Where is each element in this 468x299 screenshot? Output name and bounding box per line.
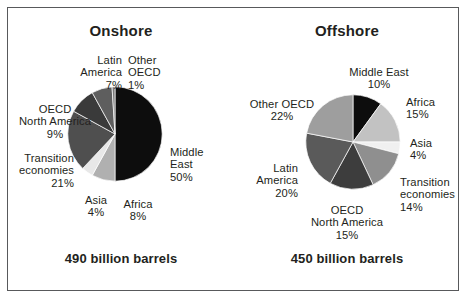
label-offshore-latin-america: Latin America 20%: [232, 162, 298, 199]
panel-onshore: Onshore Middle East 50% Africa 8% Asia 4…: [8, 8, 234, 290]
panel-title-offshore: Offshore: [234, 22, 460, 39]
label-offshore-asia: Asia 4%: [410, 137, 432, 162]
caption-onshore: 490 billion barrels: [8, 251, 234, 266]
label-offshore-middle-east: Middle East 10%: [337, 66, 421, 91]
label-onshore-middle-east: Middle East 50%: [170, 146, 204, 183]
label-onshore-asia: Asia 4%: [78, 194, 114, 219]
label-onshore-other-oecd: Other OECD 1%: [128, 54, 161, 91]
label-offshore-oecd-north-america: OECD North America 15%: [302, 204, 392, 241]
label-onshore-transition-economies: Transition economies 21%: [4, 152, 74, 189]
figure-frame: Onshore Middle East 50% Africa 8% Asia 4…: [7, 7, 459, 291]
pie-slice: [115, 87, 162, 181]
label-onshore-africa: Africa 8%: [116, 198, 160, 223]
panel-offshore: Offshore Middle East 10% Africa 15% Asia…: [234, 8, 460, 290]
panel-title-onshore: Onshore: [8, 22, 234, 39]
label-offshore-transition-economies: Transition economies 14%: [400, 176, 455, 213]
label-offshore-africa: Africa 15%: [406, 96, 435, 121]
label-offshore-other-oecd: Other OECD 22%: [242, 98, 322, 123]
caption-offshore: 450 billion barrels: [234, 251, 460, 266]
label-onshore-latin-america: Latin America 7%: [60, 54, 122, 91]
label-onshore-oecd-north-america: OECD North America 9%: [14, 103, 96, 140]
